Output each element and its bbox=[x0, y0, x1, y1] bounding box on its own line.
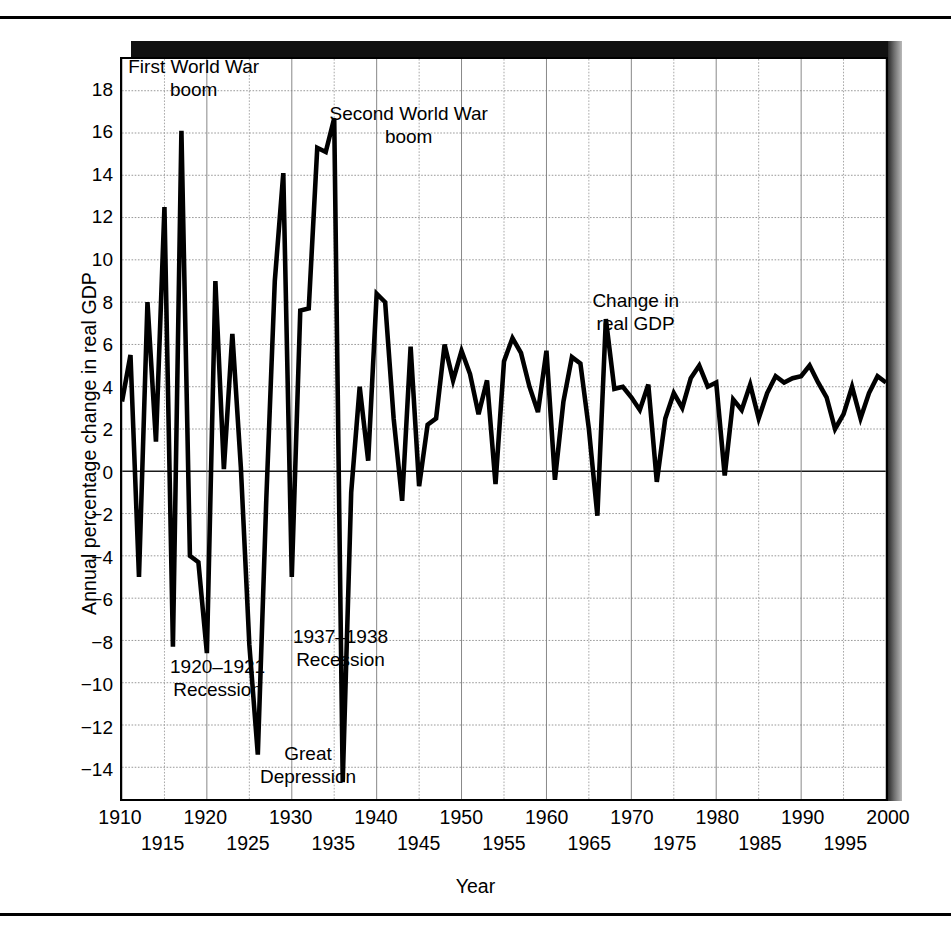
y-tick-label: 0 bbox=[102, 462, 113, 481]
y-tick-label: 18 bbox=[92, 79, 113, 98]
x-tick-label: 1910 bbox=[98, 806, 141, 828]
y-axis-tick-labels: 181614121086420−2−4−6−8−10−12−14 bbox=[56, 57, 113, 801]
y-tick-label: −14 bbox=[81, 760, 113, 779]
chart-shadow-right bbox=[888, 41, 902, 801]
annotation-line: Great bbox=[260, 742, 356, 765]
x-axis-labels-major: 1910192019301940195019601970198019902000 bbox=[120, 806, 888, 832]
annotation-line: First World War bbox=[128, 59, 259, 78]
y-tick-label: −6 bbox=[91, 590, 113, 609]
annotation-change-in-real-gdp: Change inreal GDP bbox=[592, 289, 679, 335]
plot-area: First World WarboomSecond World WarboomC… bbox=[120, 57, 888, 801]
y-tick-label: 12 bbox=[92, 207, 113, 226]
y-tick-label: −4 bbox=[91, 547, 113, 566]
x-tick-label: 1970 bbox=[610, 806, 653, 828]
annotation-second-world-war-boom: Second World Warboom bbox=[329, 102, 487, 148]
annotation-line: real GDP bbox=[592, 312, 679, 335]
x-tick-label: 1960 bbox=[525, 806, 568, 828]
y-tick-label: −10 bbox=[81, 675, 113, 694]
y-tick-label: 10 bbox=[92, 249, 113, 268]
y-tick-label: 8 bbox=[102, 292, 113, 311]
x-tick-label: 1955 bbox=[482, 832, 525, 854]
y-tick-label: 2 bbox=[102, 420, 113, 439]
x-tick-label: 1950 bbox=[440, 806, 483, 828]
annotation-first-world-war-boom: First World Warboom bbox=[128, 59, 259, 101]
x-tick-label: 1945 bbox=[397, 832, 440, 854]
annotation-line: Depression bbox=[260, 765, 356, 788]
x-tick-label: 1935 bbox=[312, 832, 355, 854]
x-tick-label: 1985 bbox=[738, 832, 781, 854]
chart-shadow-top bbox=[131, 41, 892, 58]
page-rule-top bbox=[0, 16, 951, 19]
y-tick-label: 6 bbox=[102, 335, 113, 354]
x-axis-title: Year bbox=[0, 875, 951, 898]
x-tick-label: 1965 bbox=[568, 832, 611, 854]
annotation-line: Change in bbox=[592, 289, 679, 312]
page-rule-bottom bbox=[0, 913, 951, 916]
x-tick-label: 1920 bbox=[184, 806, 227, 828]
x-tick-label: 1925 bbox=[226, 832, 269, 854]
annotation-line: boom bbox=[128, 78, 259, 101]
annotation-recession-1937-1938: 1937–1938Recession bbox=[293, 625, 388, 671]
x-tick-label: 1915 bbox=[141, 832, 184, 854]
x-tick-label: 1995 bbox=[824, 832, 867, 854]
x-tick-label: 2000 bbox=[866, 806, 909, 828]
annotation-line: Second World War bbox=[329, 102, 487, 125]
annotation-line: boom bbox=[329, 125, 487, 148]
x-tick-label: 1990 bbox=[781, 806, 824, 828]
x-tick-label: 1940 bbox=[354, 806, 397, 828]
annotation-line: Recession bbox=[170, 678, 265, 701]
y-tick-label: −2 bbox=[91, 505, 113, 524]
annotation-line: Recession bbox=[293, 648, 388, 671]
y-tick-label: −12 bbox=[81, 717, 113, 736]
y-tick-label: 4 bbox=[102, 377, 113, 396]
y-tick-label: 14 bbox=[92, 164, 113, 183]
annotation-line: 1937–1938 bbox=[293, 625, 388, 648]
x-axis-labels-minor: 191519251935194519551965197519851995 bbox=[120, 832, 888, 858]
x-tick-label: 1975 bbox=[653, 832, 696, 854]
plot-inner: First World WarboomSecond World WarboomC… bbox=[122, 59, 886, 799]
annotation-line: 1920–1921 bbox=[170, 655, 265, 678]
x-tick-label: 1930 bbox=[269, 806, 312, 828]
annotation-great-depression: GreatDepression bbox=[260, 742, 356, 788]
x-tick-label: 1980 bbox=[696, 806, 739, 828]
y-tick-label: 16 bbox=[92, 122, 113, 141]
annotation-recession-1920-1921: 1920–1921Recession bbox=[170, 655, 265, 701]
y-tick-label: −8 bbox=[91, 632, 113, 651]
